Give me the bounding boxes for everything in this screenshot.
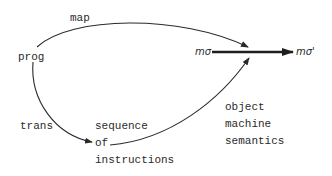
- node-sequence-line3: instructions: [95, 155, 174, 166]
- node-prog: prog: [18, 52, 44, 63]
- edge-label-map: map: [70, 13, 90, 24]
- diagram-edges: [0, 0, 332, 176]
- node-sequence-line1: sequence: [95, 121, 148, 132]
- annotation-object: object: [225, 102, 265, 113]
- node-m-sigma-prime: mσ': [296, 47, 315, 57]
- map-edge: [37, 23, 248, 47]
- compiler-correctness-diagram: map prog mσ mσ' trans sequence of instru…: [0, 0, 332, 176]
- node-sequence-line2: of: [95, 138, 108, 149]
- annotation-semantics: semantics: [225, 136, 284, 147]
- edge-label-trans: trans: [20, 121, 53, 132]
- annotation-machine: machine: [225, 119, 271, 130]
- node-m-sigma: mσ: [195, 47, 211, 57]
